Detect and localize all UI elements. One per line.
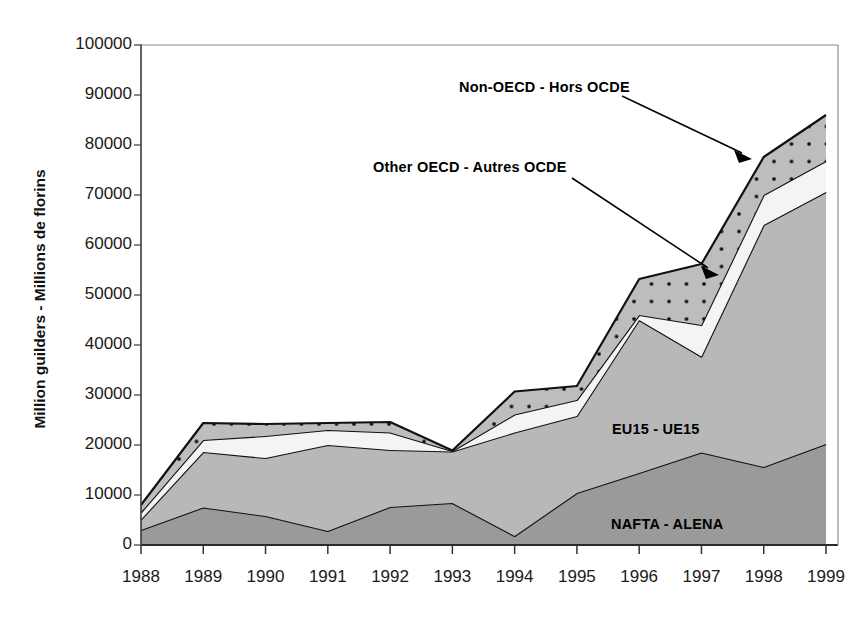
chart-figure: Million guilders - Millions de florins 0… — [0, 0, 859, 624]
annotation-other-oecd: Other OECD - Autres OCDE — [373, 159, 567, 175]
plot-area — [0, 0, 859, 624]
annotation-nafta: NAFTA - ALENA — [611, 516, 723, 532]
annotation-eu15: EU15 - UE15 — [612, 421, 700, 437]
stacked-area-bands — [141, 115, 826, 545]
annotation-non-oecd: Non-OECD - Hors OCDE — [459, 79, 630, 95]
leader-other-oecd — [572, 178, 708, 268]
leader-non-oecd — [622, 96, 742, 153]
arrowhead-non-oecd — [734, 150, 752, 163]
x-axis-ticks — [141, 545, 826, 554]
